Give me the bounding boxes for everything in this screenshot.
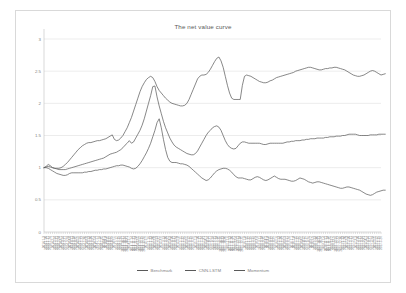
y-axis-tick-labels: 00.511.522.53 (35, 37, 42, 235)
y-axis-tick-label: 0 (39, 230, 42, 235)
legend-swatch-icon (137, 270, 148, 271)
gridlines (44, 29, 381, 234)
y-axis-tick-label: 1 (39, 165, 42, 170)
series-line-benchmark (44, 86, 385, 170)
legend-label: Benchmark (151, 268, 173, 273)
legend-item-cnn-lstm[interactable]: CNN-LSTM (185, 268, 221, 273)
y-axis-tick-label: 2 (39, 101, 42, 106)
series-line-momentum (44, 119, 385, 196)
legend-item-momentum[interactable]: Momentum (234, 268, 269, 273)
y-axis-tick-label: 1.5 (35, 133, 42, 138)
legend-swatch-icon (185, 270, 196, 271)
series-lines (44, 57, 385, 195)
legend-label: CNN-LSTM (199, 268, 221, 273)
y-axis-tick-label: 3 (39, 37, 42, 42)
series-line-cnn-lstm (44, 57, 385, 168)
legend-label: Momentum (247, 268, 269, 273)
chart-legend: Benchmark CNN-LSTM Momentum (16, 268, 390, 273)
legend-swatch-icon (234, 270, 245, 271)
x-axis-tick-label: 2017-5-26 (379, 236, 383, 250)
y-axis-tick-label: 2.5 (35, 69, 42, 74)
chart-plot-area: 00.511.522.53 2014-1-32014-1-102014-1-17… (16, 11, 392, 284)
y-axis-tick-label: 0.5 (35, 197, 42, 202)
chart-card: The net value curve 00.511.522.53 2014-1… (15, 10, 391, 283)
legend-item-benchmark[interactable]: Benchmark (137, 268, 172, 273)
x-axis-tick-labels: 2014-1-32014-1-102014-1-172014-1-242014-… (42, 236, 383, 252)
